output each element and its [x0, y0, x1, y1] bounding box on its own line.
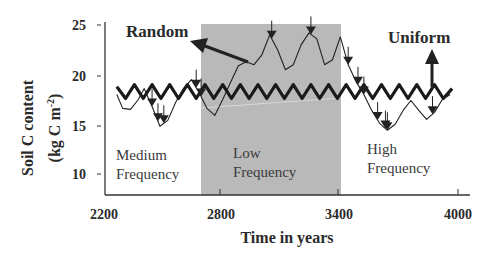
x-tick-4000: 4000	[444, 207, 472, 222]
x-tick-2200: 2200	[90, 207, 118, 222]
uniform-annotation-arrow	[425, 49, 439, 87]
y-axis-units: (kg C m-2)	[45, 94, 64, 163]
region-label-low-2: Frequency	[233, 164, 297, 180]
region-label-low-1: Low	[233, 145, 261, 161]
region-label-high-1: High	[367, 141, 398, 157]
y-tick-15: 15	[72, 119, 86, 134]
y-axis-title-line1: Soil C content	[19, 79, 36, 176]
y-tick-20: 20	[72, 69, 86, 84]
svg-text:(kg C m-2): (kg C m-2)	[45, 94, 64, 163]
soil-carbon-chart: 25 20 15 10 2200 2800 3400 4000 Time in …	[0, 0, 489, 255]
y-axis-units-close: )	[46, 94, 64, 99]
region-label-medium-2: Frequency	[116, 166, 180, 182]
y-tick-25: 25	[72, 18, 86, 33]
uniform-annotation-label: Uniform	[388, 28, 450, 47]
y-axis-units-text: (kg C m	[46, 107, 64, 163]
y-tick-10: 10	[72, 167, 86, 182]
y-axis-ticks	[97, 25, 101, 174]
region-label-medium-1: Medium	[116, 147, 167, 163]
x-axis-title: Time in years	[240, 229, 333, 247]
x-tick-3400: 3400	[325, 207, 353, 222]
random-annotation-label: Random	[126, 22, 188, 41]
region-label-high-2: Frequency	[367, 160, 431, 176]
x-tick-2800: 2800	[207, 207, 235, 222]
y-axis-units-sup: -2	[45, 99, 56, 107]
y-axis-title: Soil C content	[19, 79, 36, 176]
